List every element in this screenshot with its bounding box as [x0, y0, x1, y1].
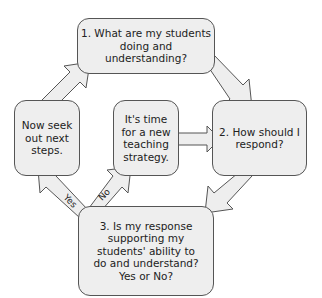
node-q3: 3. Is my response supporting my students… [78, 206, 214, 296]
node-q1: 1. What are my students doing and unders… [77, 18, 215, 74]
node-new-strategy-label: It's time for a new teaching strategy. [117, 113, 175, 163]
node-q3-label: 3. Is my response supporting my students… [89, 220, 203, 283]
node-next-steps-label: Now seek out next steps. [18, 119, 76, 157]
node-new-strategy: It's time for a new teaching strategy. [113, 100, 179, 176]
node-next-steps: Now seek out next steps. [14, 100, 80, 176]
node-q2-label: 2. How should I respond? [216, 126, 303, 151]
node-q1-label: 1. What are my students doing and unders… [81, 27, 211, 65]
node-q2: 2. How should I respond? [212, 100, 307, 176]
